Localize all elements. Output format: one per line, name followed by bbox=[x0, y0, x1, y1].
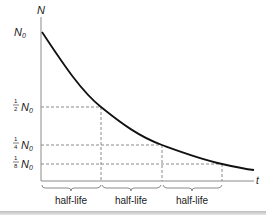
svg-text:4: 4 bbox=[14, 144, 18, 150]
label-eighth-n0: 1 8 N 0 bbox=[13, 155, 33, 171]
svg-text:2: 2 bbox=[14, 106, 18, 112]
svg-text:1: 1 bbox=[14, 136, 18, 142]
label-quarter-n0: 1 4 N 0 bbox=[13, 136, 33, 152]
svg-text:0: 0 bbox=[29, 107, 33, 114]
svg-text:1: 1 bbox=[14, 155, 18, 161]
svg-text:8: 8 bbox=[14, 163, 18, 169]
bottom-border bbox=[0, 211, 266, 215]
interval-label-2: half-life bbox=[115, 195, 148, 206]
decay-chart: N t N 0 1 2 N 0 1 4 N 0 1 8 N 0 half-lif… bbox=[0, 0, 266, 215]
interval-label-1: half-life bbox=[55, 195, 88, 206]
interval-label-3: half-life bbox=[176, 195, 209, 206]
svg-text:N: N bbox=[21, 139, 29, 151]
decay-curve bbox=[42, 32, 254, 170]
svg-text:0: 0 bbox=[29, 145, 33, 152]
svg-text:N: N bbox=[14, 26, 22, 38]
svg-text:N: N bbox=[21, 101, 29, 113]
svg-text:0: 0 bbox=[22, 32, 26, 39]
svg-text:1: 1 bbox=[14, 98, 18, 104]
label-n0: N 0 bbox=[14, 26, 26, 39]
y-axis-label: N bbox=[37, 4, 45, 16]
brace-3 bbox=[163, 185, 222, 191]
svg-text:0: 0 bbox=[29, 164, 33, 171]
x-axis-label: t bbox=[256, 175, 260, 186]
brace-2 bbox=[102, 185, 161, 191]
brace-1 bbox=[42, 185, 101, 191]
label-half-n0: 1 2 N 0 bbox=[13, 98, 33, 114]
svg-text:N: N bbox=[21, 158, 29, 170]
